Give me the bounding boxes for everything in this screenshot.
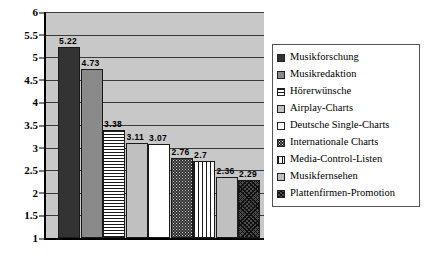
y-tick-text: 4 (33, 96, 39, 108)
legend-item[interactable]: Musikforschung (277, 49, 415, 66)
plot-area: 5.224.733.383.113.072.762.72.362.29 (44, 12, 264, 240)
bar (58, 47, 80, 238)
y-axis-tick-label: 5 (0, 52, 38, 63)
bar-value-label: 3.11 (127, 132, 145, 142)
legend-swatch-icon (277, 105, 285, 113)
y-tick-text: 3.5 (24, 119, 38, 131)
legend-item[interactable]: Media-Control-Listen (277, 151, 415, 168)
bar (216, 177, 238, 238)
bar-value-label: 3.07 (149, 133, 167, 143)
y-tick-text: 4.5 (24, 73, 38, 85)
bar-value-label: 2.36 (217, 166, 235, 176)
legend-swatch-icon (277, 122, 285, 130)
legend-swatch-icon (277, 190, 285, 198)
y-axis: 65.554.543.532.521.51 (0, 12, 38, 238)
legend-item-label: Deutsche Single-Charts (290, 120, 389, 131)
bar (171, 158, 193, 238)
legend-swatch-icon (277, 54, 285, 62)
y-tick-text: 6 (33, 6, 39, 18)
legend-item[interactable]: Internationale Charts (277, 134, 415, 151)
legend-swatch-icon (277, 173, 285, 181)
legend-item-label: Musikredaktion (290, 69, 357, 80)
bar-value-label: 4.73 (82, 58, 100, 68)
legend-item[interactable]: Deutsche Single-Charts (277, 117, 415, 134)
bar (193, 161, 215, 238)
bar-value-label: 5.22 (59, 36, 77, 46)
legend-swatch-icon (277, 139, 285, 147)
bar (103, 130, 125, 238)
y-axis-tick-label: 4 (0, 97, 38, 108)
legend-swatch-icon (277, 71, 285, 79)
legend-swatch-icon (277, 88, 285, 96)
y-tick-text: 2 (33, 186, 39, 198)
bar-value-label: 2.29 (239, 169, 257, 179)
y-tick-text: 5.5 (24, 28, 38, 40)
bar-series: 5.224.733.383.113.072.762.72.362.29 (46, 12, 264, 238)
y-axis-tick-label: 1.5 (0, 210, 38, 221)
legend-item[interactable]: Musikfernsehen (277, 168, 415, 185)
legend-item-label: Internationale Charts (290, 137, 378, 148)
bar (238, 180, 260, 238)
bar-value-label: 3.38 (104, 119, 122, 129)
y-tick-text: 5 (33, 51, 39, 63)
y-axis-tick-label: 2.5 (0, 165, 38, 176)
legend-item-label: Musikfernsehen (290, 171, 358, 182)
bar-value-label: 2.7 (194, 150, 207, 160)
y-axis-tick-label: 5.5 (0, 29, 38, 40)
y-axis-tick-label: 1 (0, 233, 38, 244)
chart-legend: MusikforschungMusikredaktionHörerwünsche… (272, 44, 420, 207)
bar (81, 69, 103, 238)
bar-value-label: 2.76 (172, 147, 190, 157)
legend-item-label: Hörerwünsche (290, 86, 351, 97)
legend-item[interactable]: Airplay-Charts (277, 100, 415, 117)
y-tick-text: 1.5 (24, 209, 38, 221)
legend-item-label: Plattenfirmen-Promotion (290, 188, 395, 199)
legend-swatch-icon (277, 156, 285, 164)
y-axis-tick-label: 6 (0, 7, 38, 18)
y-axis-tick-label: 3 (0, 142, 38, 153)
y-tick-text: 3 (33, 141, 39, 153)
y-axis-tick-label: 4.5 (0, 74, 38, 85)
y-axis-tick-label: 2 (0, 187, 38, 198)
y-tick-text: 2.5 (24, 164, 38, 176)
bar-chart: 65.554.543.532.521.51 5.224.733.383.113.… (0, 0, 426, 260)
legend-item-label: Musikforschung (290, 52, 359, 63)
bar (148, 144, 170, 238)
legend-item[interactable]: Hörerwünsche (277, 83, 415, 100)
legend-item-label: Airplay-Charts (290, 103, 353, 114)
legend-item[interactable]: Musikredaktion (277, 66, 415, 83)
legend-item-label: Media-Control-Listen (290, 154, 382, 165)
bar (126, 143, 148, 238)
y-axis-tick-label: 3.5 (0, 120, 38, 131)
legend-item[interactable]: Plattenfirmen-Promotion (277, 185, 415, 202)
y-tick-text: 1 (33, 232, 39, 244)
